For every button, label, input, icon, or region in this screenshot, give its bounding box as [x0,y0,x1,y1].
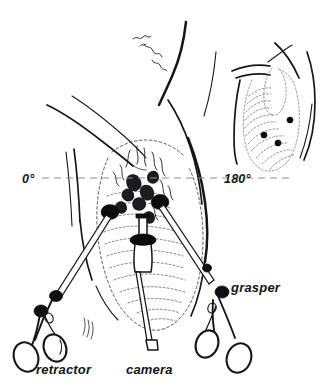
inset-back-inner [300,104,312,158]
angle-label-one-eighty: 180° [224,172,251,186]
grasper-finger-ring-lower[interactable] [223,340,256,376]
grasper-midshaft-knob [203,264,212,272]
camera-port-site [132,235,154,246]
instrument-retractor[interactable]: retractor [10,205,119,378]
flank-shading-marks [83,318,93,339]
surgical-illustration-figure: Laparoscopic port placement and instrume… [0,0,334,387]
inset-port-dot-inferior [275,140,281,146]
instrument-label-retractor: retractor [36,362,92,377]
figure-canvas: Laparoscopic port placement and instrume… [0,0,334,387]
retractor-finger-ring-upper[interactable] [40,331,71,365]
camera-trocar-body [134,244,152,272]
angle-label-zero: 0° [22,172,35,186]
left-arm-contour [47,96,146,226]
inset-port-dot-anterior [261,132,267,138]
inset-front-contour [234,80,240,164]
camera-shaft[interactable] [136,272,152,341]
inset-rib-hatch [245,88,294,169]
grasper-handle-arm-outer[interactable] [218,296,235,338]
grasper-finger-ring-upper[interactable] [192,327,223,361]
instrument-label-camera: camera [126,362,173,377]
neck-and-chin [133,36,167,71]
instrument-grasper[interactable]: grasper [151,195,281,377]
inset-lateral-view [232,43,315,171]
retractor-shaft[interactable] [57,215,111,296]
camera-eyepiece-cap [136,214,150,218]
inset-arm-upper [232,65,270,71]
inset-back-contour [304,52,315,160]
inset-arm-lower [236,74,270,78]
instrument-label-grasper: grasper [230,280,281,295]
inset-port-dot-superior [287,117,293,123]
camera-distal-tip [146,340,158,350]
